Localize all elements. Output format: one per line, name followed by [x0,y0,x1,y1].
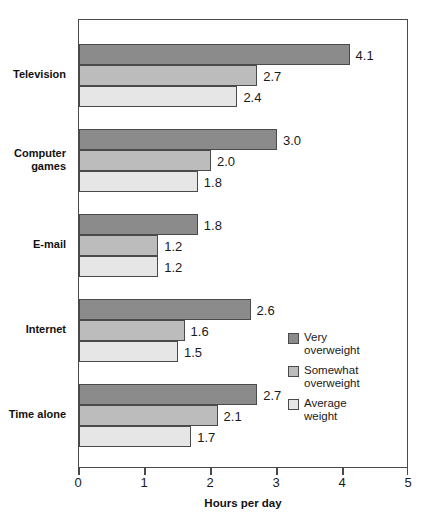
x-tick-mark [144,468,146,475]
bar [79,235,158,256]
bar-value-label: 1.2 [164,259,182,274]
bar [79,384,257,405]
bar-row: 4.1 [79,44,407,65]
bar [79,65,257,86]
x-tick-mark [276,468,278,475]
bar-chart: 4.12.72.43.02.01.81.81.21.22.61.61.52.72… [0,0,429,523]
bar-value-label: 2.6 [257,302,275,317]
category-label: E-mail [0,238,66,251]
legend-label: Average weight [304,397,347,423]
x-tick-mark [78,468,80,475]
bar-value-label: 3.0 [283,132,301,147]
bar-row: 2.0 [79,150,407,171]
bar-row: 2.7 [79,65,407,86]
bar [79,299,251,320]
bar-value-label: 2.4 [243,89,261,104]
x-tick-label: 4 [338,475,345,490]
bar [79,214,198,235]
x-tick-label: 2 [206,475,213,490]
bar [79,129,277,150]
bar-row: 2.6 [79,299,407,320]
legend-item: Very overweight [288,331,398,357]
x-axis-title: Hours per day [78,497,408,509]
x-tick-label: 5 [404,475,411,490]
bar [79,256,158,277]
x-axis: 012345 [78,468,408,475]
bar-value-label: 1.8 [204,217,222,232]
bar-row: 1.2 [79,235,407,256]
x-tick-label: 3 [272,475,279,490]
bar-value-label: 1.5 [184,344,202,359]
bar [79,171,198,192]
category-label: Computer games [0,147,66,173]
bar-row: 1.8 [79,214,407,235]
bar [79,44,350,65]
bar-row: 2.4 [79,86,407,107]
bar [79,341,178,362]
x-tick-label: 0 [74,475,81,490]
legend-swatch [288,366,299,377]
bar-group: 4.12.72.4 [79,44,407,110]
bar-value-label: 2.0 [217,153,235,168]
bar-row: 1.8 [79,171,407,192]
category-label: Time alone [0,408,66,421]
bar-value-label: 4.1 [356,47,374,62]
bar-group: 3.02.01.8 [79,129,407,195]
bar [79,405,218,426]
bar-value-label: 2.7 [263,387,281,402]
legend-swatch [288,399,299,410]
category-label: Internet [0,323,66,336]
bar [79,86,237,107]
bar [79,320,185,341]
x-tick-mark [210,468,212,475]
bar-value-label: 1.6 [191,323,209,338]
bar-value-label: 2.1 [224,408,242,423]
legend: Very overweightSomewhat overweightAverag… [288,331,398,430]
category-label: Television [0,68,66,81]
legend-item: Average weight [288,397,398,423]
bar-value-label: 1.7 [197,429,215,444]
legend-swatch [288,333,299,344]
bar [79,426,191,447]
bar-value-label: 1.2 [164,238,182,253]
legend-item: Somewhat overweight [288,364,398,390]
x-tick-mark [342,468,344,475]
x-tick-label: 1 [140,475,147,490]
bar-value-label: 1.8 [204,174,222,189]
bar-value-label: 2.7 [263,68,281,83]
legend-label: Somewhat overweight [304,364,360,390]
bar-row: 1.2 [79,256,407,277]
bar-row: 3.0 [79,129,407,150]
legend-label: Very overweight [304,331,360,357]
bar [79,150,211,171]
x-tick-mark [407,468,409,475]
chart-title [0,0,429,1]
bar-group: 1.81.21.2 [79,214,407,280]
